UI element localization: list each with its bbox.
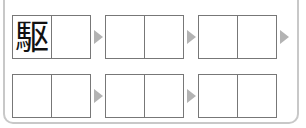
arrow-right-icon [94, 30, 103, 44]
arrow-right-icon [94, 89, 103, 103]
writing-cell[interactable] [144, 75, 183, 117]
writing-cell[interactable] [106, 75, 144, 117]
writing-cell[interactable] [199, 75, 237, 117]
writing-cell[interactable] [106, 16, 144, 58]
writing-box-6 [198, 74, 277, 118]
writing-cell[interactable] [51, 75, 90, 117]
writing-box-3 [198, 15, 277, 59]
writing-box-2 [105, 15, 184, 59]
writing-cell[interactable]: 駆 [13, 16, 51, 58]
writing-cell[interactable] [237, 75, 276, 117]
writing-cell[interactable] [144, 16, 183, 58]
writing-box-4 [12, 74, 91, 118]
writing-cell[interactable] [51, 16, 90, 58]
arrow-right-icon [187, 30, 196, 44]
writing-cell[interactable] [199, 16, 237, 58]
writing-box-5 [105, 74, 184, 118]
writing-cell[interactable] [13, 75, 51, 117]
writing-box-1: 駆 [12, 15, 91, 59]
writing-cell[interactable] [237, 16, 276, 58]
arrow-right-icon [280, 30, 289, 44]
arrow-right-icon [187, 89, 196, 103]
